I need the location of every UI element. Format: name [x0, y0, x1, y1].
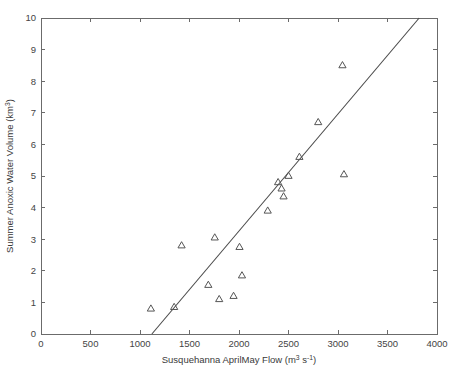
chart-figure: 0500100015002000250030003500400001234567… — [0, 0, 468, 376]
x-tick-label: 1000 — [129, 338, 150, 349]
data-point-marker — [216, 295, 223, 301]
data-point-marker — [205, 281, 212, 287]
y-tick-label: 1 — [31, 297, 36, 308]
x-axis-title: Susquehanna AprilMay Flow (m3 s-1) — [162, 354, 317, 365]
regression-line — [152, 18, 419, 334]
y-tick-label: 2 — [31, 265, 36, 276]
data-point-marker — [147, 305, 154, 311]
y-tick-label: 9 — [31, 44, 36, 55]
y-tick-label: 8 — [31, 76, 36, 87]
x-tick-label: 4000 — [426, 338, 447, 349]
data-point-marker — [238, 272, 245, 278]
data-point-marker — [340, 171, 347, 177]
data-point-marker — [230, 292, 237, 298]
x-tick-label: 2500 — [278, 338, 299, 349]
y-tick-label: 6 — [31, 139, 36, 150]
data-point-marker — [178, 242, 185, 248]
axis-frame — [41, 18, 437, 334]
data-point-marker — [236, 243, 243, 249]
data-point-marker — [211, 234, 218, 240]
x-tick-label: 1500 — [179, 338, 200, 349]
x-tick-label: 3500 — [377, 338, 398, 349]
data-point-marker — [264, 207, 271, 213]
y-tick-label: 7 — [31, 107, 36, 118]
x-tick-label: 2000 — [228, 338, 249, 349]
y-tick-label: 3 — [31, 234, 36, 245]
x-tick-label: 3000 — [327, 338, 348, 349]
y-tick-label: 10 — [25, 12, 36, 23]
y-tick-label: 4 — [31, 202, 36, 213]
y-axis-title: Summer Anoxic Water Volume (km3) — [4, 99, 15, 253]
data-point-marker — [315, 118, 322, 124]
y-tick-label: 0 — [31, 328, 36, 339]
plot-area: 0500100015002000250030003500400001234567… — [4, 12, 448, 365]
scatter-plot-svg: 0500100015002000250030003500400001234567… — [0, 0, 468, 376]
data-point-marker — [280, 193, 287, 199]
data-point-marker — [339, 62, 346, 68]
data-point-marker — [278, 185, 285, 191]
x-tick-label: 0 — [38, 338, 43, 349]
y-tick-label: 5 — [31, 170, 36, 181]
x-tick-label: 500 — [83, 338, 99, 349]
